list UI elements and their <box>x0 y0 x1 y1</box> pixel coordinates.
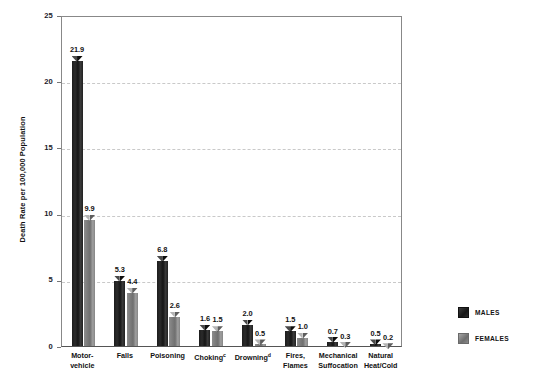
bar-value-label: 0.7 <box>328 327 338 336</box>
bar-cap-left <box>114 276 120 282</box>
bar-cap-right <box>375 339 381 345</box>
y-axis-tick-label: 20 <box>44 77 53 86</box>
x-axis-category-label: Fires,Flames <box>274 351 317 370</box>
bar-cap-left <box>285 326 291 332</box>
x-axis-category-label: Falls <box>104 351 147 361</box>
bar-cap-left <box>72 56 78 62</box>
bar-value-label: 1.5 <box>285 315 295 324</box>
bar-value-label: 0.5 <box>370 329 380 338</box>
x-axis-category-label: Poisoning <box>146 351 189 361</box>
bar-cap-left <box>255 339 261 345</box>
bar-cap-right <box>132 288 138 294</box>
bar-notch-cap <box>169 312 180 318</box>
bar-body <box>242 325 253 346</box>
bar-notch-cap <box>255 339 266 345</box>
bar-value-label: 6.8 <box>157 245 167 254</box>
bar-cap-right <box>120 276 126 282</box>
x-axis-category-label: MechanicalSuffocation <box>317 351 360 370</box>
x-axis-category-label: Motor-vehicle <box>61 351 104 370</box>
bar-females[interactable]: 2.6 <box>169 312 180 346</box>
y-axis-tick-label: 10 <box>44 209 53 218</box>
bar-cap-right <box>205 325 211 331</box>
legend-swatch <box>458 333 469 344</box>
plot-area: 21.99.95.34.46.82.61.61.52.00.51.51.00.7… <box>61 16 402 347</box>
bar-cap-right <box>248 320 254 326</box>
bar-females[interactable]: 1.0 <box>297 333 308 346</box>
bar-body <box>212 331 223 346</box>
bar-females[interactable]: 0.2 <box>382 343 393 346</box>
bar-notch-cap <box>327 337 338 343</box>
bar-body <box>84 220 95 346</box>
bar-cap-left <box>382 343 388 349</box>
chart-container: Death Rate per 100,000 Population 051015… <box>0 0 535 391</box>
legend-item-females[interactable]: FEMALES <box>458 333 509 344</box>
bar-cap-right <box>90 215 96 221</box>
bar-cap-right <box>260 339 266 345</box>
y-axis-tick-label: 5 <box>49 275 53 284</box>
legend-label: FEMALES <box>475 335 509 342</box>
bar-notch-cap <box>72 56 83 62</box>
bar-cap-left <box>157 256 163 262</box>
bars-layer: 21.99.95.34.46.82.61.61.52.00.51.51.00.7… <box>62 17 401 346</box>
bar-notch-cap <box>84 215 95 221</box>
bar-males[interactable]: 21.9 <box>72 56 83 346</box>
bar-males[interactable]: 1.5 <box>285 326 296 346</box>
bar-value-label: 5.3 <box>115 265 125 274</box>
y-axis-ticks: 0510152025 <box>0 0 61 331</box>
legend-label: MALES <box>475 309 500 316</box>
legend-item-males[interactable]: MALES <box>458 307 500 318</box>
bar-notch-cap <box>370 339 381 345</box>
bar-cap-right <box>77 56 83 62</box>
x-axis-category-label: Chokingc <box>189 351 232 363</box>
x-axis-labels: Motor-vehicleFallsPoisoningChokingcDrown… <box>61 351 402 385</box>
bar-value-label: 1.0 <box>298 322 308 331</box>
bar-body <box>199 330 210 346</box>
bar-notch-cap <box>382 343 393 349</box>
bar-notch-cap <box>199 325 210 331</box>
bar-notch-cap <box>157 256 168 262</box>
bar-cap-right <box>388 343 394 349</box>
bar-males[interactable]: 0.7 <box>327 337 338 346</box>
bar-cap-right <box>303 333 309 339</box>
bar-females[interactable]: 1.5 <box>212 326 223 346</box>
bar-cap-right <box>333 337 339 343</box>
bar-females[interactable]: 9.9 <box>84 215 95 346</box>
bar-cap-right <box>162 256 168 262</box>
bar-notch-cap <box>242 320 253 326</box>
bar-females[interactable]: 4.4 <box>127 288 138 346</box>
bar-males[interactable]: 5.3 <box>114 276 125 346</box>
chart-title-sliver <box>60 0 290 3</box>
y-axis-tick-label: 25 <box>44 11 53 20</box>
bar-value-label: 21.9 <box>70 45 84 54</box>
bar-males[interactable]: 0.5 <box>370 339 381 346</box>
bar-cap-left <box>84 215 90 221</box>
bar-notch-cap <box>212 326 223 332</box>
bar-cap-right <box>290 326 296 332</box>
y-axis-tick-label: 0 <box>49 342 53 351</box>
y-axis-tick-label: 15 <box>44 143 53 152</box>
bar-value-label: 2.6 <box>170 301 180 310</box>
bar-value-label: 0.2 <box>383 333 393 342</box>
bar-notch-cap <box>340 342 351 348</box>
bar-value-label: 2.0 <box>243 309 253 318</box>
bar-females[interactable]: 0.3 <box>340 342 351 346</box>
bar-males[interactable]: 1.6 <box>199 325 210 346</box>
y-axis-tick-mark <box>57 347 61 348</box>
bar-cap-left <box>169 312 175 318</box>
bar-cap-left <box>212 326 218 332</box>
bar-body <box>127 293 138 346</box>
bar-body <box>297 338 308 346</box>
bar-males[interactable]: 2.0 <box>242 320 253 346</box>
bar-body <box>72 61 83 346</box>
bar-value-label: 0.3 <box>340 332 350 341</box>
bar-notch-cap <box>285 326 296 332</box>
bar-cap-right <box>175 312 181 318</box>
bar-cap-left <box>340 342 346 348</box>
bar-cap-left <box>127 288 133 294</box>
bar-notch-cap <box>127 288 138 294</box>
bar-males[interactable]: 6.8 <box>157 256 168 346</box>
bar-cap-left <box>199 325 205 331</box>
legend-swatch <box>458 307 469 318</box>
bar-females[interactable]: 0.5 <box>255 339 266 346</box>
bar-notch-cap <box>114 276 125 282</box>
